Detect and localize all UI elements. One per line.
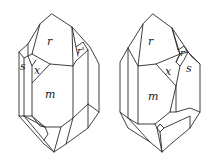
left-crystal: r r' s x m xyxy=(19,14,99,152)
label-m: m xyxy=(45,88,55,101)
label-r-prime: r' xyxy=(180,47,188,58)
crystal-figure: r r' s x m r r' s x m xyxy=(0,0,218,167)
label-r-prime: r' xyxy=(77,45,85,56)
right-crystal: r r' s x m xyxy=(120,14,200,152)
label-s: s xyxy=(20,60,26,73)
label-r: r xyxy=(47,35,53,48)
label-m: m xyxy=(148,90,158,103)
label-x: x xyxy=(34,64,41,77)
label-x: x xyxy=(165,65,172,78)
label-s: s xyxy=(186,62,192,75)
label-r: r xyxy=(148,35,154,48)
